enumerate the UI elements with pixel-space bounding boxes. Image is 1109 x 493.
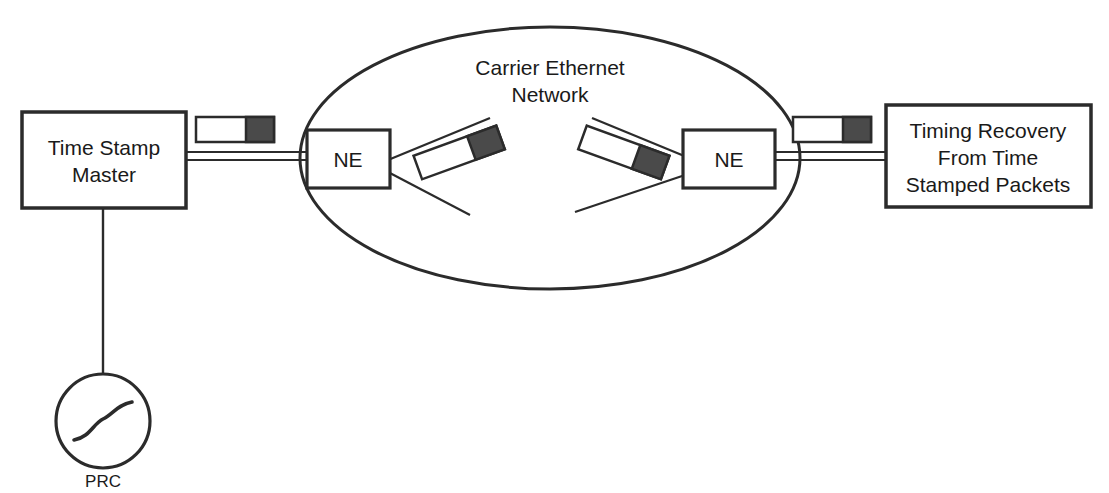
timing-recovery-label-line3: Stamped Packets [906, 173, 1071, 196]
prc-label: PRC [85, 472, 121, 491]
network-label-line2: Network [511, 83, 589, 106]
packet-slave-ingress [793, 117, 871, 142]
packet-master-egress-payload [246, 117, 274, 142]
network-label-line1: Carrier Ethernet [475, 56, 625, 79]
time-stamp-master-label-line2: Master [72, 163, 136, 186]
timing-recovery-label-line1: Timing Recovery [910, 119, 1067, 142]
timing-recovery-label-line2: From Time [938, 146, 1038, 169]
packet-slave-ingress-payload [843, 117, 871, 142]
ne-left-label: NE [333, 148, 362, 171]
packet-master-egress [196, 117, 274, 142]
diagram-canvas: Time Stamp Master PRC NE NE Carrier Ethe… [0, 0, 1109, 493]
ne-right-label: NE [714, 148, 743, 171]
network-diagram: Time Stamp Master PRC NE NE Carrier Ethe… [0, 0, 1109, 493]
time-stamp-master-label-line1: Time Stamp [48, 136, 160, 159]
time-stamp-master-box [22, 112, 186, 208]
